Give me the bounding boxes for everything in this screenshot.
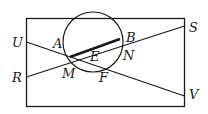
label-r: R — [11, 70, 22, 85]
geometry-diagram: U R A M E F B N S V — [0, 0, 208, 114]
label-b: B — [125, 30, 136, 45]
label-v: V — [189, 87, 200, 102]
label-s: S — [189, 20, 198, 35]
label-n: N — [122, 48, 135, 63]
label-a: A — [52, 36, 62, 51]
rectangle-frame — [27, 19, 185, 107]
label-f: F — [98, 70, 109, 85]
label-m: M — [61, 66, 76, 81]
label-e: E — [89, 49, 100, 64]
label-u: U — [12, 35, 24, 50]
